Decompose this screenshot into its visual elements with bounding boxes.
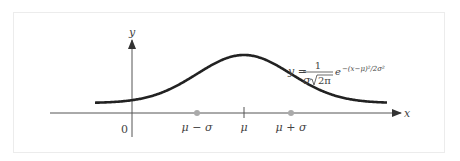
equation-numerator: 1 <box>315 60 321 71</box>
tick-label-mu-plus-sigma: μ + σ <box>276 121 307 134</box>
tick-label-mu-minus-sigma: μ − σ <box>182 121 213 134</box>
origin-label: 0 <box>121 123 128 136</box>
mu-minus-sigma-point <box>194 110 200 116</box>
y-axis-label: y <box>128 26 136 39</box>
equation-exponent: −(x−μ)²/2σ² <box>342 65 385 73</box>
mu-plus-sigma-point <box>288 110 294 116</box>
equation: y = 1 σ 2π e −(x−μ)²/2σ² <box>287 60 385 87</box>
equation-denominator-sigma: σ <box>303 74 311 87</box>
x-axis-label: x <box>404 107 411 120</box>
tick-label-mu: μ <box>240 121 247 134</box>
equation-exp-base: e <box>335 66 341 77</box>
normal-distribution-figure: x y 0 μ − σ μ μ + σ y = 1 σ 2π e −(x−μ)²… <box>0 0 460 161</box>
equation-denominator-sqrt: 2π <box>318 75 331 86</box>
bell-curve <box>95 55 387 103</box>
